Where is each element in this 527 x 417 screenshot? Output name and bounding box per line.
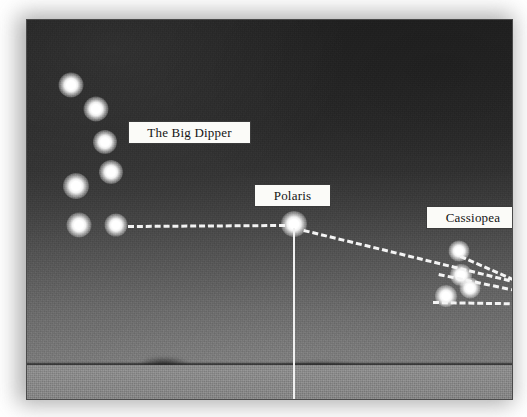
ground-grain-texture (27, 365, 512, 400)
label-big-dipper: The Big Dipper (128, 121, 251, 144)
foreground-ground (27, 365, 512, 400)
star-chart-scene: The Big DipperPolarisCassiopea (0, 0, 527, 417)
label-cassiopea: Cassiopea (426, 206, 513, 229)
label-polaris: Polaris (254, 184, 331, 207)
night-sky-photo: The Big DipperPolarisCassiopea (26, 19, 513, 400)
